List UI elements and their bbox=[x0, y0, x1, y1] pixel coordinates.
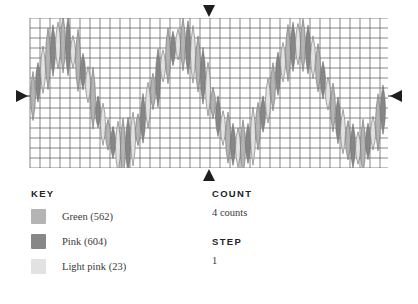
legend-item[interactable]: Pink (604) bbox=[31, 231, 201, 252]
info-panel: KEY Green (562)Pink (604)Light pink (23)… bbox=[0, 182, 418, 304]
legend-swatch-green bbox=[31, 209, 46, 224]
count-heading: COUNT bbox=[212, 188, 392, 199]
chart-marker-lens[interactable] bbox=[331, 83, 336, 132]
step-value: 1 bbox=[212, 254, 392, 267]
legend-list: Green (562)Pink (604)Light pink (23) bbox=[31, 206, 201, 277]
chart-marker-lens[interactable] bbox=[261, 96, 266, 132]
chart-marker-lens[interactable] bbox=[151, 73, 156, 110]
key-heading: KEY bbox=[31, 188, 201, 199]
chart-marker-lens[interactable] bbox=[291, 22, 296, 71]
chart-area[interactable] bbox=[0, 0, 418, 182]
chart-marker-lens[interactable] bbox=[341, 109, 346, 154]
chart-marker-lens[interactable] bbox=[301, 19, 306, 72]
chart-marker-lens[interactable] bbox=[61, 15, 66, 73]
count-value: 4 counts bbox=[212, 206, 392, 219]
chart-marker-lens[interactable] bbox=[31, 71, 36, 120]
legend-item[interactable]: Light pink (23) bbox=[31, 256, 201, 277]
chart-marker-lens[interactable] bbox=[91, 67, 96, 129]
chart-marker-lens[interactable] bbox=[201, 47, 206, 104]
meta-column: COUNT 4 counts STEP 1 bbox=[212, 188, 392, 267]
chart-marker-lens[interactable] bbox=[311, 36, 316, 79]
chart-marker-lens[interactable] bbox=[221, 111, 226, 146]
chart-marker-lens[interactable] bbox=[81, 53, 86, 90]
legend-item[interactable]: Green (562) bbox=[31, 206, 201, 227]
chart-marker-lens[interactable] bbox=[231, 123, 236, 165]
chart-marker-lens[interactable] bbox=[271, 63, 276, 111]
chart-marker-lens[interactable] bbox=[101, 103, 106, 145]
wave-lens-chart[interactable] bbox=[0, 0, 418, 182]
chart-page: KEY Green (562)Pink (604)Light pink (23)… bbox=[0, 0, 418, 304]
chart-marker-lens[interactable] bbox=[371, 116, 376, 150]
chart-marker-lens[interactable] bbox=[71, 36, 76, 68]
chart-marker-lens[interactable] bbox=[171, 31, 176, 66]
chart-marker-lens[interactable] bbox=[211, 87, 216, 118]
chart-marker-lens[interactable] bbox=[321, 61, 326, 99]
chart-marker-lens[interactable] bbox=[361, 119, 366, 174]
chart-marker-lens[interactable] bbox=[161, 50, 166, 82]
legend-swatch-pink bbox=[31, 234, 46, 249]
chart-marker-lens[interactable] bbox=[181, 18, 186, 71]
legend-item-label: Pink (604) bbox=[62, 236, 107, 247]
chart-marker-lens[interactable] bbox=[51, 25, 56, 77]
chart-marker-lens[interactable] bbox=[191, 26, 196, 84]
chart-marker-lens[interactable] bbox=[251, 107, 256, 165]
key-column: KEY Green (562)Pink (604)Light pink (23) bbox=[31, 188, 201, 281]
chart-markers[interactable] bbox=[31, 15, 386, 178]
chart-marker-lens[interactable] bbox=[381, 85, 386, 134]
chart-marker-lens[interactable] bbox=[111, 126, 116, 158]
legend-item-label: Light pink (23) bbox=[62, 261, 126, 272]
chart-marker-lens[interactable] bbox=[351, 124, 356, 168]
legend-swatch-light-pink bbox=[31, 259, 46, 274]
legend-item-label: Green (562) bbox=[62, 211, 113, 222]
chart-marker-lens[interactable] bbox=[41, 46, 46, 93]
step-block: STEP 1 bbox=[212, 236, 392, 267]
chart-marker-lens[interactable] bbox=[141, 93, 146, 143]
step-heading: STEP bbox=[212, 236, 392, 247]
count-block: COUNT 4 counts bbox=[212, 188, 392, 219]
